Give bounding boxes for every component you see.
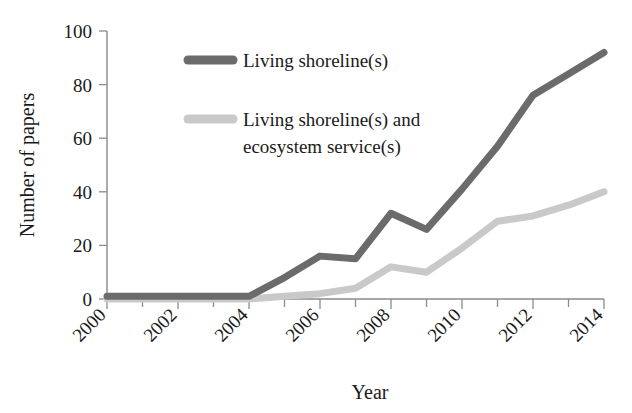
chart-page: 0 20 40 60 80 100 2000 bbox=[0, 0, 632, 413]
y-tick-label-0: 0 bbox=[83, 289, 93, 310]
y-tick-marks bbox=[99, 31, 107, 299]
x-tick-label-2002: 2002 bbox=[139, 304, 181, 346]
y-tick-label-20: 20 bbox=[73, 235, 92, 256]
y-tick-labels: 0 20 40 60 80 100 bbox=[64, 21, 93, 310]
y-tick-label-60: 60 bbox=[73, 128, 92, 149]
x-tick-label-2006: 2006 bbox=[281, 304, 323, 346]
x-tick-label-2008: 2008 bbox=[352, 304, 394, 346]
y-tick-label-80: 80 bbox=[73, 75, 92, 96]
series-line-living-shorelines bbox=[107, 192, 604, 299]
chart-legend: Living shoreline(s) Living shoreline(s) … bbox=[188, 50, 421, 158]
legend-label-living-shorelines: Living shoreline(s) bbox=[243, 50, 388, 72]
x-tick-label-2004: 2004 bbox=[210, 304, 252, 346]
y-tick-label-100: 100 bbox=[64, 21, 93, 42]
y-axis-title: Number of papers bbox=[16, 93, 39, 238]
x-tick-label-2000: 2000 bbox=[68, 304, 110, 346]
legend-label-living-shorelines-ecosystem-services-line1: Living shoreline(s) and bbox=[243, 109, 421, 131]
x-tick-label-2010: 2010 bbox=[423, 304, 465, 346]
legend-label-living-shorelines-ecosystem-services-line2: ecosystem service(s) bbox=[243, 136, 401, 158]
line-chart: 0 20 40 60 80 100 2000 bbox=[0, 0, 632, 413]
series-line-living-shorelines-ecosystem-services bbox=[107, 52, 604, 296]
x-tick-label-2012: 2012 bbox=[494, 304, 536, 346]
x-tick-labels: 2000 2002 2004 2006 2008 2010 2012 2014 bbox=[68, 304, 607, 346]
x-tick-label-2014: 2014 bbox=[565, 304, 607, 346]
x-axis-title: Year bbox=[352, 381, 389, 403]
y-tick-label-40: 40 bbox=[73, 182, 92, 203]
